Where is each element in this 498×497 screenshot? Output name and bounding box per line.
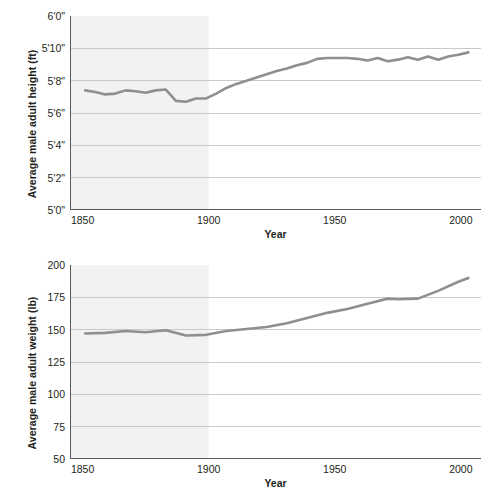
plot-area-weight: 50751001251501752001850190019502000 xyxy=(70,265,481,459)
x-tick-label: 2000 xyxy=(449,463,472,475)
y-tick-label: 50 xyxy=(53,453,65,465)
y-tick-label: 6'0" xyxy=(48,10,65,22)
y-tick-label: 5'2" xyxy=(48,172,65,184)
plot-area-height: 5'0"5'2"5'4"5'6"5'8"5'10"6'0"18501900195… xyxy=(70,16,481,210)
weight-plot-svg xyxy=(70,265,481,459)
y-tick-label: 125 xyxy=(47,356,65,368)
y-tick-label: 150 xyxy=(47,324,65,336)
y-tick-label: 200 xyxy=(47,259,65,271)
x-tick-label: 2000 xyxy=(449,214,472,226)
x-axis-title-height: Year xyxy=(70,228,481,240)
x-tick-label: 1900 xyxy=(197,214,220,226)
x-tick-label: 1950 xyxy=(323,214,346,226)
chart-panel-weight: Average male adult weight (lb) 507510012… xyxy=(0,249,498,497)
y-axis-title-height: Average male adult height (ft) xyxy=(26,29,38,219)
height-plot-svg xyxy=(70,16,481,210)
y-tick-label: 75 xyxy=(53,421,65,433)
y-tick-label: 5'6" xyxy=(48,107,65,119)
x-tick-label: 1850 xyxy=(71,463,94,475)
y-tick-label: 175 xyxy=(47,291,65,303)
x-axis-title-weight: Year xyxy=(70,477,481,489)
two-panel-line-chart-figure: Average male adult height (ft) 5'0"5'2"5… xyxy=(0,0,498,497)
x-tick-label: 1900 xyxy=(197,463,220,475)
x-tick-label: 1950 xyxy=(323,463,346,475)
y-tick-label: 100 xyxy=(47,388,65,400)
chart-panel-height: Average male adult height (ft) 5'0"5'2"5… xyxy=(0,0,498,248)
y-tick-label: 5'8" xyxy=(48,75,65,87)
y-tick-label: 5'4" xyxy=(48,139,65,151)
y-axis-title-weight: Average male adult weight (lb) xyxy=(26,278,38,468)
x-tick-label: 1850 xyxy=(71,214,94,226)
y-tick-label: 5'10" xyxy=(42,42,65,54)
y-tick-label: 5'0" xyxy=(48,204,65,216)
